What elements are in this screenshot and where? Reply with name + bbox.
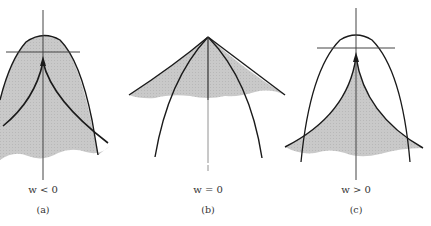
panel-a-condition: w < 0 (13, 184, 73, 195)
panel-b-shaded-region (129, 37, 285, 98)
panel-c-diagram (285, 8, 423, 180)
panel-b-condition: w = 0 (178, 184, 238, 195)
panel-a-shaded-region (0, 35, 110, 160)
panel-c-caption: (c) (326, 204, 386, 215)
panel-c-condition: w > 0 (326, 184, 386, 195)
panel-b-diagram (129, 37, 285, 171)
panel-a-caption: (a) (13, 204, 73, 215)
panel-b-caption: (b) (178, 204, 238, 215)
panel-a-diagram (0, 10, 110, 180)
